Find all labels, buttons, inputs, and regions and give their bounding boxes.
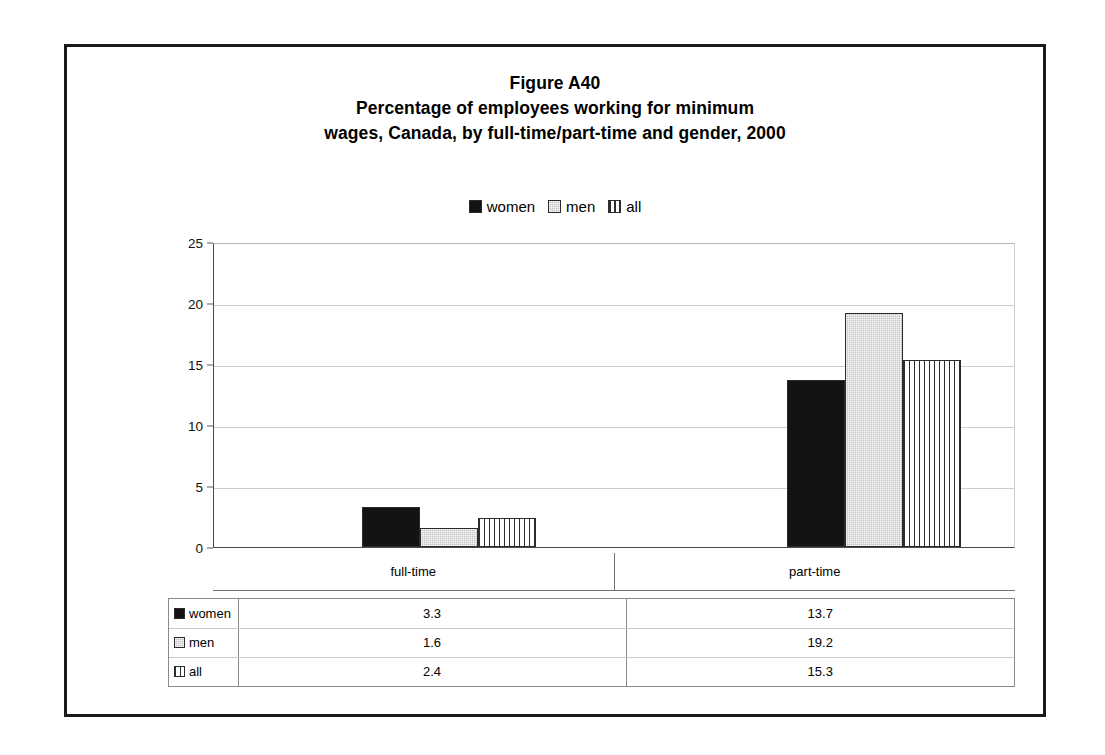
category-label-part-time: part-time [615, 553, 1016, 590]
figure-frame: Figure A40 Percentage of employees worki… [64, 44, 1046, 717]
legend-swatch-women-icon [469, 200, 482, 213]
cell-all-full-time: 2.4 [238, 657, 626, 686]
table-swatch-men-icon [174, 637, 185, 648]
ytick-label-25: 25 [133, 236, 203, 251]
table-swatch-all-icon [174, 666, 185, 677]
table-row-label-women: women [189, 606, 231, 621]
chart-legend: women men all [67, 199, 1043, 214]
bar-part-time-men[interactable] [845, 313, 903, 547]
bar-part-time-all[interactable] [903, 360, 961, 547]
table-swatch-women-icon [174, 608, 185, 619]
ytick-label-0: 0 [133, 541, 203, 556]
bar-full-time-men[interactable] [420, 528, 478, 548]
category-label-full-time: full-time [213, 553, 615, 590]
title-line-1: Figure A40 [67, 71, 1043, 96]
ytick-label-10: 10 [133, 419, 203, 434]
legend-entry-men: men [548, 199, 595, 214]
table-row-header-women: women [169, 599, 238, 628]
ytick-label-20: 20 [133, 297, 203, 312]
title-line-3: wages, Canada, by full-time/part-time an… [67, 121, 1043, 146]
legend-label-women: women [487, 199, 535, 214]
table-row: women 3.3 13.7 [169, 599, 1014, 628]
data-table: women 3.3 13.7 men 1.6 19.2 all 2.4 [168, 598, 1015, 687]
table-row: all 2.4 15.3 [169, 657, 1014, 686]
category-axis-row: full-time part-time [213, 553, 1015, 591]
cell-women-part-time: 13.7 [626, 599, 1014, 628]
table-row-label-all: all [189, 664, 202, 679]
table-row: men 1.6 19.2 [169, 628, 1014, 657]
cell-men-part-time: 19.2 [626, 628, 1014, 657]
legend-entry-women: women [469, 199, 535, 214]
ytick-label-15: 15 [133, 358, 203, 373]
bar-group-part-time [787, 244, 961, 547]
figure-title: Figure A40 Percentage of employees worki… [67, 71, 1043, 146]
cell-all-part-time: 15.3 [626, 657, 1014, 686]
table-row-header-men: men [169, 628, 238, 657]
legend-swatch-all-icon [608, 200, 621, 213]
ytick-label-5: 5 [133, 480, 203, 495]
bar-group-full-time [362, 244, 536, 547]
bar-full-time-women[interactable] [362, 507, 420, 547]
legend-label-men: men [566, 199, 595, 214]
cell-women-full-time: 3.3 [238, 599, 626, 628]
bar-part-time-women[interactable] [787, 380, 845, 547]
legend-entry-all: all [608, 199, 641, 214]
table-row-label-men: men [189, 635, 214, 650]
cell-men-full-time: 1.6 [238, 628, 626, 657]
bar-full-time-all[interactable] [478, 518, 536, 547]
legend-label-all: all [626, 199, 641, 214]
legend-swatch-men-icon [548, 200, 561, 213]
table-row-header-all: all [169, 657, 238, 686]
plot-wrapper: 25 20 15 10 5 0 [107, 233, 1015, 563]
title-line-2: Percentage of employees working for mini… [67, 96, 1043, 121]
plot-area [213, 243, 1015, 548]
